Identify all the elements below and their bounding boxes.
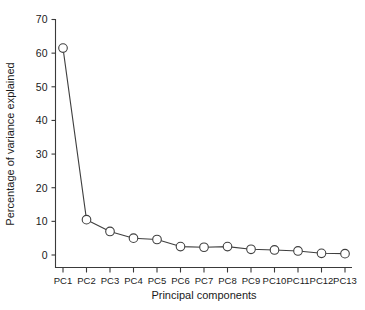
data-point bbox=[317, 249, 326, 258]
x-tick-label: PC1 bbox=[54, 275, 72, 286]
x-tick-label: PC6 bbox=[171, 275, 189, 286]
y-axis-title: Percentage of variance explained bbox=[4, 62, 16, 225]
x-tick-label: PC12 bbox=[310, 275, 334, 286]
x-tick-label: PC13 bbox=[333, 275, 357, 286]
x-tick-label: PC11 bbox=[286, 275, 309, 286]
x-tick-label: PC5 bbox=[148, 275, 166, 286]
x-tick-label: PC7 bbox=[195, 275, 213, 286]
y-tick-label: 40 bbox=[36, 114, 48, 126]
data-point bbox=[341, 249, 350, 258]
x-tick-label: PC8 bbox=[218, 275, 236, 286]
y-tick-label: 20 bbox=[36, 182, 48, 194]
x-tick-label: PC3 bbox=[101, 275, 119, 286]
data-point bbox=[129, 234, 138, 243]
scree-plot-figure: 010203040506070 PC1PC2PC3PC4PC5PC6PC7PC8… bbox=[0, 0, 365, 310]
data-point bbox=[223, 242, 232, 251]
data-point bbox=[153, 235, 162, 244]
x-tick-label: PC2 bbox=[77, 275, 95, 286]
data-point bbox=[294, 247, 303, 256]
data-point bbox=[200, 243, 209, 252]
data-point bbox=[59, 44, 68, 53]
x-tick-label: PC9 bbox=[242, 275, 260, 286]
data-point bbox=[247, 245, 256, 254]
scree-plot-svg: 010203040506070 PC1PC2PC3PC4PC5PC6PC7PC8… bbox=[0, 0, 365, 310]
y-tick-label: 70 bbox=[36, 13, 48, 25]
data-point bbox=[176, 242, 185, 251]
data-point bbox=[82, 215, 91, 224]
figure-background bbox=[0, 0, 365, 310]
x-tick-label: PC4 bbox=[124, 275, 142, 286]
x-tick-label: PC10 bbox=[263, 275, 287, 286]
data-point bbox=[106, 227, 115, 236]
x-axis-title: Principal components bbox=[151, 289, 257, 301]
y-tick-label: 0 bbox=[42, 249, 48, 261]
y-tick-label: 30 bbox=[36, 148, 48, 160]
y-tick-label: 10 bbox=[36, 215, 48, 227]
y-tick-label: 60 bbox=[36, 47, 48, 59]
data-point bbox=[270, 246, 279, 255]
y-tick-label: 50 bbox=[36, 81, 48, 93]
